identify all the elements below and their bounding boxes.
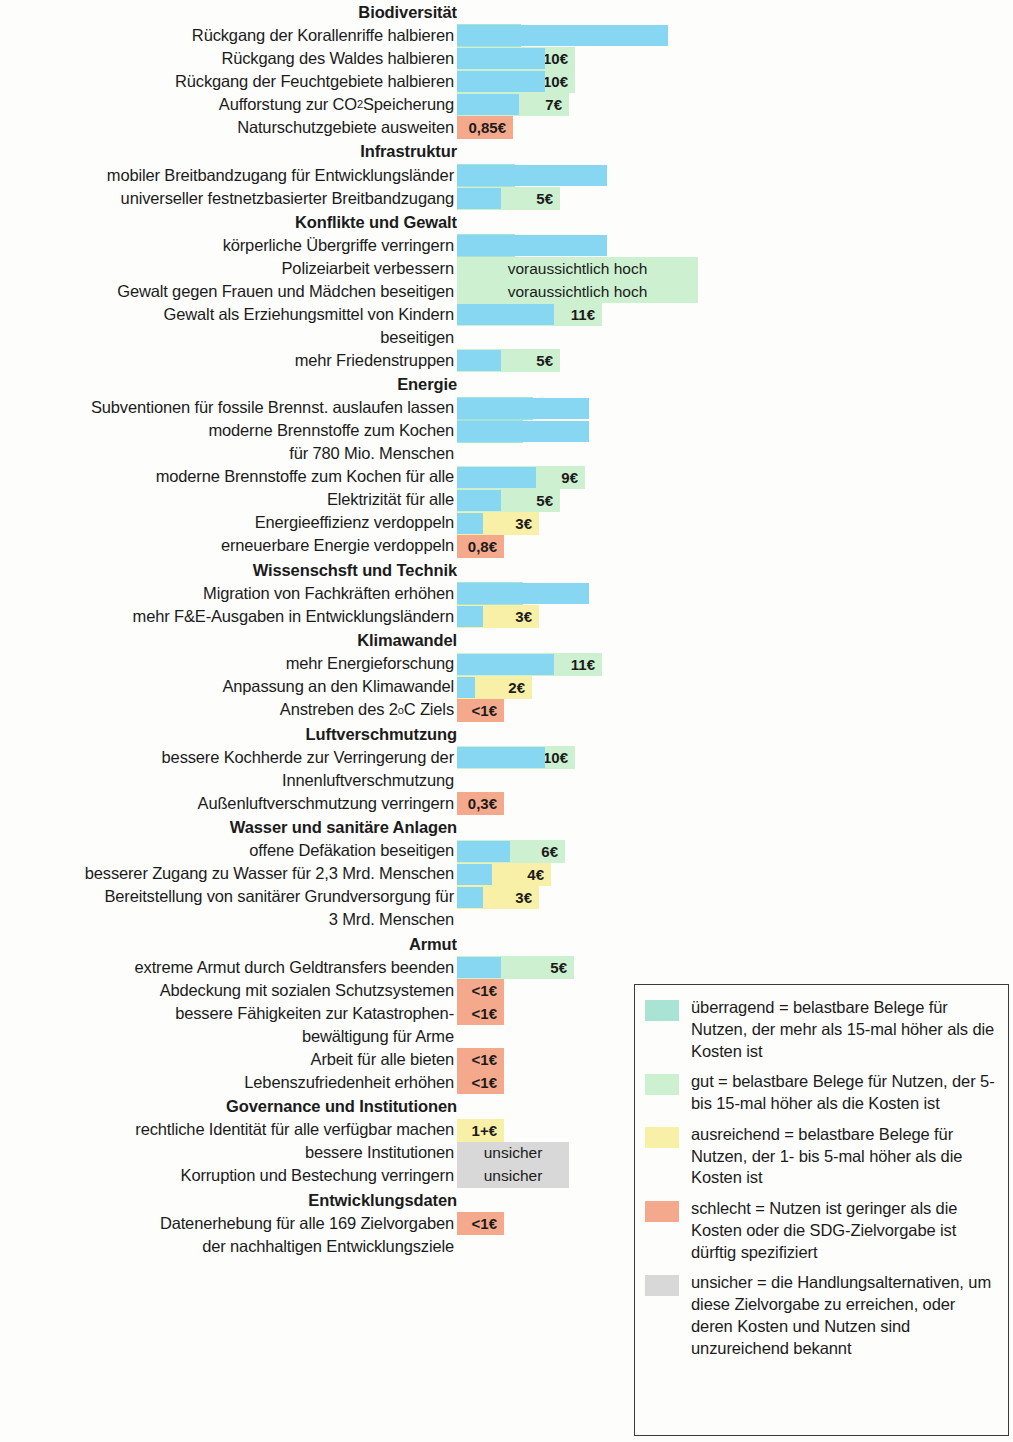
row-label-continuation: für 780 Mio. Menschen xyxy=(0,443,457,466)
chart-row: mobiler Breitbandzugang für Entwicklungs… xyxy=(0,164,1013,187)
chart-row: Rückgang des Waldes halbieren10€ xyxy=(0,47,1013,70)
value-badge: 0,8€ xyxy=(457,535,504,558)
chart-row: Aufforstung zur CO2 Speicherung7€ xyxy=(0,93,1013,116)
value-bar xyxy=(457,94,519,115)
row-label: Gewalt als Erziehungsmittel von Kindern xyxy=(0,303,457,326)
row-label: Energieeffizienz verdoppeln xyxy=(0,512,457,535)
value-badge: <1€ xyxy=(457,979,504,1002)
row-label: mobiler Breitbandzugang für Entwicklungs… xyxy=(0,164,457,187)
row-label: Datenerhebung für alle 169 Zielvorgaben xyxy=(0,1212,457,1235)
legend-item: ausreichend = belastbare Belege für Nutz… xyxy=(645,1124,998,1189)
chart-row: Polizeiarbeit verbessernvoraussichtlich … xyxy=(0,257,1013,280)
group-heading: Wasser und sanitäre Anlagen xyxy=(0,815,457,839)
row-label: moderne Brennstoffe zum Kochen für alle xyxy=(0,466,457,489)
row-bar-area: 10€ xyxy=(457,70,1013,93)
row-label: Polizeiarbeit verbessern xyxy=(0,257,457,280)
row-label: mehr Energieforschung xyxy=(0,653,457,676)
chart-row: mehr F&E-Ausgaben in Entwicklungsländern… xyxy=(0,605,1013,628)
row-bar-area: 2€ xyxy=(457,676,1013,699)
value-bar xyxy=(457,71,545,92)
chart-row: körperliche Übergriffe verringern17€ xyxy=(0,234,1013,257)
group-heading: Luftverschmutzung xyxy=(0,722,457,746)
row-label: Naturschutzgebiete ausweiten xyxy=(0,116,457,139)
legend-item: unsicher = die Handlungsalternativen, um… xyxy=(645,1272,998,1359)
chart-row: bessere Kochherde zur Verringerung der10… xyxy=(0,746,1013,769)
value-bar xyxy=(457,654,554,675)
row-bar-area: 17€ xyxy=(457,164,1013,187)
chart-row: offene Defäkation beseitigen6€ xyxy=(0,840,1013,863)
row-label: universeller festnetzbasierter Breitband… xyxy=(0,187,457,210)
value-badge: <1€ xyxy=(457,1002,504,1025)
row-label: rechtliche Identität für alle verfügbar … xyxy=(0,1119,457,1142)
row-label: bessere Fähigkeiten zur Katastrophen- xyxy=(0,1002,457,1025)
row-label: körperliche Übergriffe verringern xyxy=(0,234,457,257)
value-bar xyxy=(457,350,501,371)
row-label: mehr Friedenstruppen xyxy=(0,349,457,372)
legend-item: schlecht = Nutzen ist geringer als die K… xyxy=(645,1198,998,1263)
row-label-continuation: 3 Mrd. Menschen xyxy=(0,909,457,932)
chart-row: erneuerbare Energie verdoppeln0,8€ xyxy=(0,535,1013,558)
chart-row: moderne Brennstoffe zum Kochen15€ xyxy=(0,420,1013,443)
row-bar-area: 3€ xyxy=(457,605,1013,628)
row-bar-area: 11€ xyxy=(457,303,1013,326)
value-bar xyxy=(457,48,545,69)
value-bar xyxy=(457,235,607,256)
legend-label: schlecht = Nutzen ist geringer als die K… xyxy=(691,1198,998,1263)
value-bar xyxy=(457,677,475,698)
value-badge: voraussichtlich hoch xyxy=(457,257,698,280)
legend-label: gut = belastbare Belege für Nutzen, der … xyxy=(691,1071,998,1115)
row-label: Korruption und Bestechung verringern xyxy=(0,1165,457,1188)
row-bar-area: voraussichtlich hoch xyxy=(457,280,1013,303)
row-bar-area: 15€ xyxy=(457,582,1013,605)
row-bar-area: <1€ xyxy=(457,699,1013,722)
value-bar xyxy=(457,165,607,186)
row-bar-area: 17€ xyxy=(457,234,1013,257)
legend-swatch-schlecht xyxy=(645,1201,679,1222)
legend-swatch-ausreichend xyxy=(645,1127,679,1148)
row-label: Subventionen für fossile Brennst. auslau… xyxy=(0,397,457,420)
row-label: Arbeit für alle bieten xyxy=(0,1048,457,1071)
value-badge: 0,85€ xyxy=(457,116,513,139)
chart-row: moderne Brennstoffe zum Kochen für alle9… xyxy=(0,466,1013,489)
group-heading: Klimawandel xyxy=(0,628,457,652)
row-bar-area: 5€ xyxy=(457,187,1013,210)
row-label-continuation: der nachhaltigen Entwicklungsziele xyxy=(0,1235,457,1258)
row-bar-area: 3€ xyxy=(457,886,1013,909)
row-bar-area: 7€ xyxy=(457,93,1013,116)
value-badge: <1€ xyxy=(457,1048,504,1071)
legend-label: ausreichend = belastbare Belege für Nutz… xyxy=(691,1124,998,1189)
legend-label: überragend = belastbare Belege für Nutze… xyxy=(691,997,998,1062)
group-heading: Entwicklungsdaten xyxy=(0,1188,457,1212)
row-label: offene Defäkation beseitigen xyxy=(0,840,457,863)
value-bar xyxy=(457,957,501,978)
value-bar xyxy=(457,25,668,46)
row-label: besserer Zugang zu Wasser für 2,3 Mrd. M… xyxy=(0,863,457,886)
value-bar xyxy=(457,864,492,885)
value-bar xyxy=(457,421,589,442)
chart-row: Naturschutzgebiete ausweiten0,85€ xyxy=(0,116,1013,139)
row-label-continuation: beseitigen xyxy=(0,326,457,349)
row-bar-area: voraussichtlich hoch xyxy=(457,257,1013,280)
chart-row: Anpassung an den Klimawandel2€ xyxy=(0,676,1013,699)
group-heading: Governance und Institutionen xyxy=(0,1094,457,1118)
legend-swatch-gut xyxy=(645,1074,679,1095)
chart-row: Gewalt gegen Frauen und Mädchen beseitig… xyxy=(0,280,1013,303)
value-badge: 0,3€ xyxy=(457,792,504,815)
row-label: bessere Institutionen xyxy=(0,1142,457,1165)
value-bar xyxy=(457,398,589,419)
row-bar-area: 5€ xyxy=(457,489,1013,512)
row-label: mehr F&E-Ausgaben in Entwicklungsländern xyxy=(0,605,457,628)
row-label: Rückgang der Feuchtgebiete halbieren xyxy=(0,70,457,93)
chart-row: universeller festnetzbasierter Breitband… xyxy=(0,187,1013,210)
value-badge: 1+€ xyxy=(457,1119,504,1142)
legend-swatch-ueberragend xyxy=(645,1000,679,1021)
chart-row: mehr Friedenstruppen5€ xyxy=(0,349,1013,372)
row-label: Migration von Fachkräften erhöhen xyxy=(0,582,457,605)
legend-swatch-unsicher xyxy=(645,1275,679,1296)
value-bar xyxy=(457,467,536,488)
row-bar-area: 5€ xyxy=(457,349,1013,372)
row-label: Rückgang des Waldes halbieren xyxy=(0,47,457,70)
chart-row: besserer Zugang zu Wasser für 2,3 Mrd. M… xyxy=(0,863,1013,886)
row-bar-area: 9€ xyxy=(457,466,1013,489)
value-bar xyxy=(457,188,501,209)
